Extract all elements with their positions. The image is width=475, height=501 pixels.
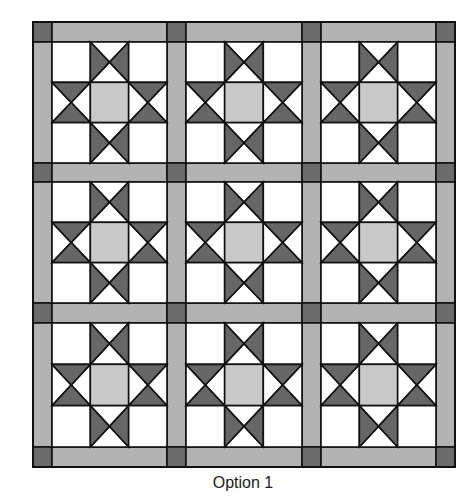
sashing-strip (33, 323, 52, 447)
sashing-strip (321, 447, 436, 467)
block-corner-square (129, 42, 167, 82)
sashing-strip (436, 42, 455, 163)
sashing-strip (52, 163, 167, 182)
cornerstone (167, 22, 186, 42)
block-corner-square (321, 182, 359, 222)
block-corner-square (263, 323, 302, 364)
sashing-strip (186, 303, 302, 323)
sashing-strip (321, 303, 436, 323)
block-corner-square (263, 42, 302, 82)
block-corner-square (398, 263, 436, 303)
sashing-strip (302, 42, 321, 163)
sashing-strip (186, 447, 302, 467)
sashing-strip (167, 42, 186, 163)
sashing-strip (186, 22, 302, 42)
sashing-strip (52, 22, 167, 42)
cornerstone (436, 447, 455, 467)
sashing-strip (321, 22, 436, 42)
block-corner-square (186, 263, 225, 303)
block-corner-square (52, 182, 90, 222)
block-corner-square (52, 323, 90, 364)
cornerstone (167, 303, 186, 323)
cornerstone (167, 447, 186, 467)
block-corner-square (186, 123, 225, 163)
cornerstone (33, 303, 52, 323)
cornerstone (436, 22, 455, 42)
block-corner-square (321, 123, 359, 163)
block-center-square (359, 364, 397, 405)
cornerstone (302, 303, 321, 323)
block-corner-square (263, 406, 302, 447)
sashing-strip (436, 323, 455, 447)
block-corner-square (186, 323, 225, 364)
cornerstone (302, 163, 321, 182)
block-center-square (90, 82, 128, 122)
block-corner-square (398, 406, 436, 447)
cornerstone (302, 447, 321, 467)
block-corner-square (129, 406, 167, 447)
sashing-strip (33, 42, 52, 163)
cornerstone (302, 22, 321, 42)
block-corner-square (263, 123, 302, 163)
block-corner-square (129, 182, 167, 222)
block-center-square (359, 222, 397, 262)
cornerstone (33, 163, 52, 182)
block-corner-square (186, 406, 225, 447)
block-corner-square (186, 182, 225, 222)
block-corner-square (52, 123, 90, 163)
block-corner-square (52, 42, 90, 82)
block-center-square (90, 222, 128, 262)
sashing-strip (167, 182, 186, 303)
sashing-strip (33, 182, 52, 303)
sashing-strip (186, 163, 302, 182)
block-corner-square (129, 323, 167, 364)
block-center-square (225, 222, 264, 262)
block-corner-square (321, 263, 359, 303)
sashing-strip (436, 182, 455, 303)
block-corner-square (129, 263, 167, 303)
block-corner-square (129, 123, 167, 163)
cornerstone (33, 447, 52, 467)
block-corner-square (52, 263, 90, 303)
cornerstone (436, 163, 455, 182)
block-corner-square (398, 323, 436, 364)
block-center-square (359, 82, 397, 122)
sashing-strip (302, 323, 321, 447)
sashing-strip (52, 447, 167, 467)
block-corner-square (398, 123, 436, 163)
cornerstone (436, 303, 455, 323)
block-corner-square (52, 406, 90, 447)
block-corner-square (321, 42, 359, 82)
caption-label: Option 1 (0, 474, 475, 492)
cornerstone (33, 22, 52, 42)
block-center-square (90, 364, 128, 405)
sashing-strip (52, 303, 167, 323)
block-corner-square (186, 42, 225, 82)
block-corner-square (398, 42, 436, 82)
block-center-square (225, 82, 264, 122)
sashing-strip (167, 323, 186, 447)
block-corner-square (321, 323, 359, 364)
block-corner-square (398, 182, 436, 222)
cornerstone (167, 163, 186, 182)
block-corner-square (263, 263, 302, 303)
block-corner-square (263, 182, 302, 222)
quilt-diagram (0, 0, 475, 501)
sashing-strip (321, 163, 436, 182)
block-center-square (225, 364, 264, 405)
block-corner-square (321, 406, 359, 447)
sashing-strip (302, 182, 321, 303)
